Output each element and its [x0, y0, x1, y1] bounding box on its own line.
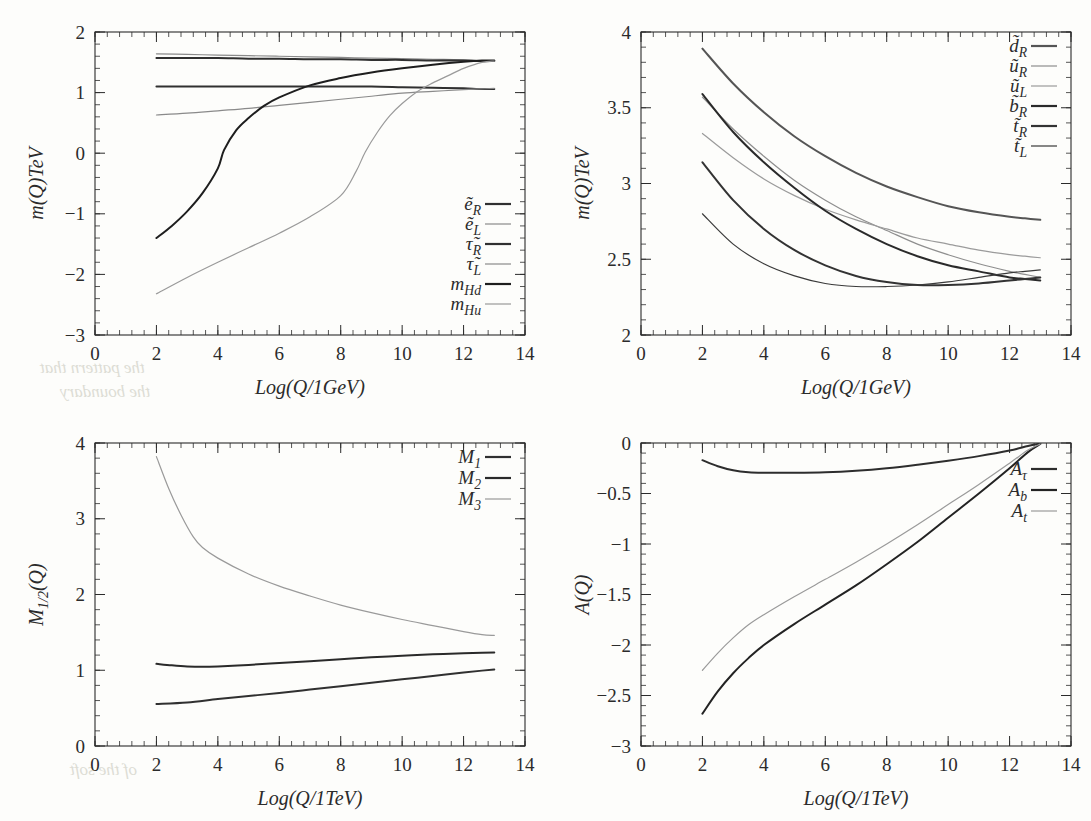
x-tick-label: 2 [698, 754, 708, 775]
y-tick-label: 0 [76, 143, 86, 164]
x-tick-label: 6 [275, 754, 285, 775]
x-tick-label: 6 [821, 754, 831, 775]
y-tick-label: −2.5 [597, 685, 631, 706]
y-tick-label: −0.5 [597, 483, 631, 504]
series-curve-τ̃_L [156, 88, 494, 115]
legend-base: ũ [1010, 75, 1020, 96]
x-tick-label: 6 [821, 343, 831, 364]
y-tick-label: 4 [76, 433, 86, 454]
series-curve-M_1 [156, 669, 494, 703]
legend-sub: 3 [473, 498, 481, 513]
x-axis-title: Log(Q/1TeV) [257, 787, 363, 810]
x-tick-label: 6 [275, 343, 285, 364]
legend: M1M2M3 [457, 446, 511, 513]
series-curve-A_b [702, 444, 1040, 714]
y-tick-label: −3 [611, 736, 631, 757]
x-axis-title: Log(Q/1GeV) [800, 376, 911, 399]
axis-ticks [641, 443, 1071, 746]
y-tick-label: 3.5 [607, 97, 631, 118]
x-tick-label: 8 [882, 754, 892, 775]
y-title-rest: (Q) [25, 563, 48, 591]
series-curve-m_Hu [156, 61, 494, 294]
series-layer [156, 54, 494, 294]
legend-base: ũ [1009, 55, 1019, 76]
y-tick-label: −1 [611, 534, 631, 555]
x-tick-label: 10 [939, 343, 958, 364]
series-curve-d̃_R [702, 49, 1040, 220]
series-curve-b̃_R [702, 94, 1040, 280]
x-tick-label: 10 [393, 754, 412, 775]
series-curve-A_t [702, 444, 1040, 670]
legend-sub: τ [1022, 468, 1028, 483]
panel-top-right: 0246810121422.533.54Log(Q/1GeV)m(Q)TeVd̃… [546, 0, 1091, 410]
x-tick-label: 14 [516, 343, 536, 364]
y-tick-label: 2 [76, 22, 86, 43]
x-tick-label: 14 [1062, 754, 1082, 775]
legend-sub: t [1023, 510, 1028, 525]
legend-base: M [457, 488, 475, 509]
y-title-sub: 1/2 [36, 591, 51, 609]
legend-sub: 1 [474, 456, 481, 471]
y-tick-label: −2 [611, 635, 631, 656]
x-tick-label: 0 [636, 343, 646, 364]
y-tick-label: 3 [622, 173, 632, 194]
plot-top-right: 0246810121422.533.54Log(Q/1GeV)m(Q)TeVd̃… [546, 0, 1091, 410]
x-axis-title: Log(Q/1GeV) [254, 376, 365, 399]
legend-base: A [1008, 458, 1022, 479]
y-axis-title-text: m(Q)TeV [25, 144, 48, 219]
legend-sub: L [1018, 85, 1027, 100]
y-tick-label: 2 [76, 584, 86, 605]
legend-base: M [457, 446, 475, 467]
plot-top-left: 02468101214−3−2−1012Log(Q/1GeV)m(Q)TeVẽR… [0, 0, 545, 410]
y-tick-label: 0 [622, 433, 632, 454]
legend-sub: Hd [463, 283, 481, 298]
y-tick-label: 1 [76, 82, 86, 103]
legend: ẽRẽLτ̃Rτ̃LmHdmHu [451, 193, 511, 318]
series-curve-A_τ [702, 444, 1040, 473]
legend: d̃RũRũLb̃Rt̃Rt̃L [1009, 35, 1057, 160]
series-layer [156, 457, 494, 704]
x-tick-label: 2 [152, 343, 162, 364]
series-curve-M_3 [156, 457, 494, 636]
legend: AτAbAt [1007, 458, 1057, 525]
y-tick-label: 2 [622, 325, 632, 346]
y-tick-label: 4 [622, 22, 632, 43]
legend-sub: L [472, 263, 481, 278]
axis-ticks [641, 32, 1071, 335]
y-axis-title-text: A(Q) [571, 574, 594, 616]
legend-sub: 2 [474, 477, 481, 492]
plot-bottom-left: 0246810121401234Log(Q/1TeV)M1/2(Q)M1M2M3 [0, 411, 545, 821]
legend-base: A [1007, 479, 1021, 500]
legend-sub: R [1018, 45, 1028, 60]
series-layer [702, 444, 1040, 714]
y-title-base: M [25, 608, 47, 627]
legend-base: m [451, 273, 465, 294]
x-tick-label: 14 [516, 754, 536, 775]
x-tick-label: 2 [152, 754, 162, 775]
y-axis-title-text: m(Q)TeV [571, 144, 594, 219]
x-tick-label: 4 [213, 343, 223, 364]
y-tick-label: −2 [65, 264, 85, 285]
y-axis-title-text: M1/2(Q) [25, 563, 51, 627]
plot-bottom-right: 02468101214−3−2.5−2−1.5−1−0.50Log(Q/1TeV… [546, 411, 1091, 821]
series-curve-ũ_R [702, 97, 1040, 277]
x-axis-title: Log(Q/1TeV) [803, 787, 909, 810]
panel-bottom-right: 02468101214−3−2.5−2−1.5−1−0.50Log(Q/1TeV… [546, 411, 1091, 821]
x-tick-label: 14 [1062, 343, 1082, 364]
legend-sub: R [1018, 105, 1028, 120]
legend-sub: L [1018, 145, 1027, 160]
y-tick-label: 0 [76, 736, 86, 757]
series-curve-ẽ_R [156, 86, 494, 89]
series-layer [702, 49, 1040, 287]
y-tick-label: −1 [65, 203, 85, 224]
x-tick-label: 4 [759, 754, 769, 775]
legend-base: m [451, 293, 465, 314]
panel-bottom-left: 0246810121401234Log(Q/1TeV)M1/2(Q)M1M2M3 [0, 411, 545, 821]
x-tick-label: 12 [1000, 343, 1019, 364]
plot-frame [641, 443, 1071, 746]
legend-base: A [1010, 500, 1024, 521]
y-tick-label: 2.5 [607, 249, 631, 270]
panel-top-left: 02468101214−3−2−1012Log(Q/1GeV)m(Q)TeVẽR… [0, 0, 545, 410]
y-axis-title: m(Q)TeV [571, 144, 594, 219]
x-tick-label: 8 [336, 343, 346, 364]
